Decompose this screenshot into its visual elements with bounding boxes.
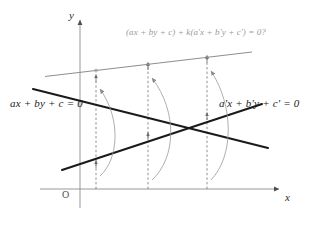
equation-label-family: (ax + by + c) + k(a'x + b'y + c') = 0? bbox=[126, 28, 266, 37]
y-axis-label: y bbox=[69, 10, 74, 21]
x-axis-label: x bbox=[285, 192, 290, 203]
origin-label: O bbox=[62, 190, 69, 200]
dashed-connectors-group bbox=[96, 56, 207, 189]
equation-label-line2: a'x + b'y + c' = 0 bbox=[219, 98, 300, 109]
figure-container: ax + by + c = 0 a'x + b'y + c' = 0 (ax +… bbox=[0, 0, 313, 226]
curved-arrow-1 bbox=[100, 89, 115, 176]
line-a2x-b2y-c2 bbox=[62, 104, 262, 170]
curved-arrows-group bbox=[100, 71, 228, 180]
curved-arrow-2 bbox=[152, 78, 171, 180]
family-line bbox=[45, 52, 252, 77]
curved-arrow-3 bbox=[211, 71, 228, 180]
axes-group bbox=[40, 20, 279, 208]
equation-label-line1: ax + by + c = 0 bbox=[10, 98, 83, 109]
